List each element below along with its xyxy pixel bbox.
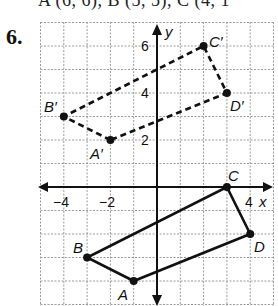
point-b [83,254,91,262]
label-a: A [117,286,128,303]
point-a [130,277,138,285]
point-c-prime [200,42,208,50]
x-tick-neg4: −4 [53,194,69,210]
label-a-prime: A′ [89,145,104,162]
label-d: D [254,238,265,255]
label-b: B [73,239,83,256]
label-c: C [228,167,239,184]
x-tick-4: 4 [245,194,253,210]
point-b-prime [60,113,68,121]
coordinate-graph: y x −4 −2 4 6 4 2 A′ B′ C′ D′ A B C D [0,0,278,306]
y-tick-4: 4 [141,85,149,101]
point-c [223,183,231,191]
y-axis-label: y [164,23,174,40]
point-a-prime [106,136,114,144]
axes [38,24,273,306]
label-d-prime: D′ [230,97,245,114]
label-b-prime: B′ [44,98,58,115]
point-d-prime [223,89,231,97]
y-tick-6: 6 [141,38,149,54]
point-d [246,230,254,238]
label-c-prime: C′ [209,33,224,50]
x-axis-label: x [258,193,267,210]
y-tick-2: 2 [141,132,149,148]
x-tick-neg2: −2 [99,194,115,210]
